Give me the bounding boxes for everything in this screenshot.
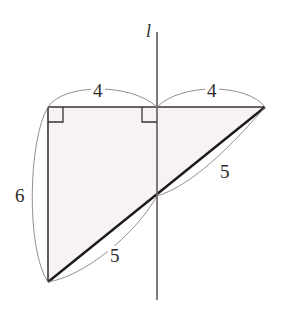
dimension-label-diagonal-upper: 5 [218,162,232,181]
dimension-label-top-right: 4 [205,81,219,100]
dimension-label-left-side: 6 [13,186,27,205]
axis-label-l: l [146,22,151,40]
measure-arc-left-side [32,107,48,282]
dimension-label-diagonal-lower: 5 [108,246,122,265]
dimension-label-top-left: 4 [91,81,105,100]
geometry-canvas [0,0,281,311]
geometry-figure: l 4 4 6 5 5 [0,0,281,311]
